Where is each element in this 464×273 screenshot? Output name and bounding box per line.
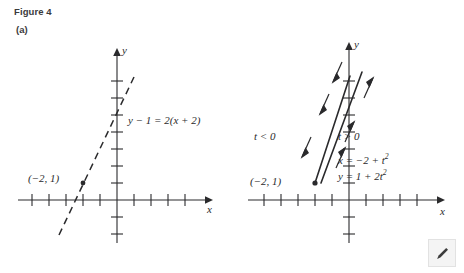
pencil-icon[interactable] (428, 239, 456, 267)
parametric-equation-y: y = 1 + 2t2 (338, 168, 389, 184)
parametric-equations-b: x = −2 + t2 y = 1 + 2t2 (338, 152, 389, 183)
pencil-glyph (434, 245, 451, 262)
parametric-equation-x: x = −2 + t2 (338, 152, 389, 168)
line-equation-a (59, 77, 134, 235)
point-marker-b (312, 180, 317, 185)
y-axis-a (113, 48, 121, 243)
y-axis-label-b: y (354, 38, 359, 50)
panel-b: (b) (232, 0, 464, 273)
branch-label-t-positive: t > 0 (338, 130, 359, 144)
parametric-equation-y-exponent: 2 (383, 168, 387, 177)
parametric-equation-x-rhs: −2 + t (356, 154, 385, 166)
y-axis-label-a: y (122, 44, 127, 56)
parametric-equation-y-rhs: 1 + 2t (356, 169, 383, 181)
point-label-b: (−2, 1) (250, 175, 281, 189)
parametric-equation-x-lhs: x = (338, 154, 353, 166)
branch-label-t-negative: t < 0 (254, 130, 275, 144)
point-label-a: (−2, 1) (28, 172, 59, 186)
point-marker-a (81, 181, 86, 186)
parametric-equation-x-exponent: 2 (385, 152, 389, 161)
panel-a: (a) (0, 0, 232, 273)
parametric-equation-y-lhs: y = (338, 169, 353, 181)
x-axis-a (18, 196, 213, 204)
x-axis-label-a: x (207, 203, 212, 215)
x-axis-label-b: x (440, 205, 445, 217)
x-axis-b (248, 196, 445, 204)
panel-a-plot (0, 0, 232, 273)
equation-label-a: y − 1 = 2(x + 2) (128, 114, 200, 128)
figure-root: Figure 4 (a) (0, 0, 464, 273)
